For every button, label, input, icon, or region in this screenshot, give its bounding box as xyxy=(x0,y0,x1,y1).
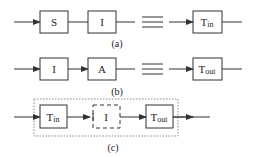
block-i-label: I xyxy=(100,16,104,28)
row-c xyxy=(14,99,210,136)
block-a-label: A xyxy=(98,63,106,75)
caption-c: (c) xyxy=(107,142,118,154)
caption-a: (a) xyxy=(111,38,122,50)
block-i-label: I xyxy=(104,111,108,123)
block-i-label: I xyxy=(52,63,56,75)
caption-b: (b) xyxy=(111,86,123,98)
block-tout-label: Tout xyxy=(151,111,169,124)
block-diagram: S I Tin (a) I A Tout (b) Tin I Tout (c) xyxy=(0,0,254,157)
block-tout-label: Tout xyxy=(199,63,217,76)
block-s-label: S xyxy=(51,16,57,28)
block-tin-label: Tin xyxy=(47,111,60,124)
block-tin-label: Tin xyxy=(201,16,214,29)
